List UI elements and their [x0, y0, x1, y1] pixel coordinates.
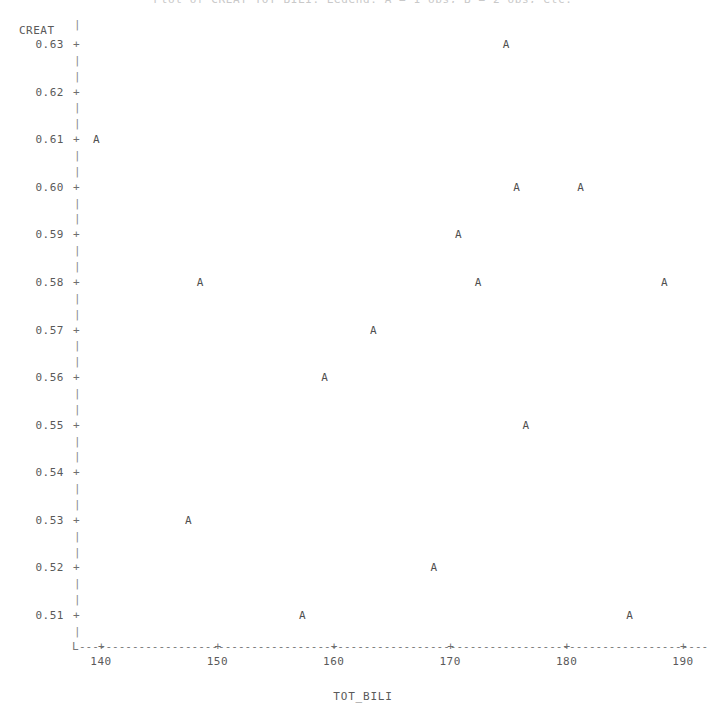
- data-point-marker: A: [624, 610, 634, 621]
- axis-origin-corner: L: [72, 641, 79, 652]
- y-axis-tick-label: 0.55: [20, 419, 64, 432]
- data-point-marker: A: [453, 229, 463, 240]
- y-axis-spine-segment: |: [74, 150, 81, 161]
- y-axis-tick-label: 0.54: [20, 466, 64, 479]
- y-axis-tick-mark: +: [73, 39, 80, 50]
- x-axis-tick-mark: +: [680, 641, 687, 652]
- y-axis-spine-segment: |: [74, 118, 81, 129]
- y-axis-spine-segment: |: [74, 436, 81, 447]
- y-axis-tick-label: 0.51: [20, 609, 64, 622]
- y-axis-spine-segment: |: [74, 340, 81, 351]
- data-point-marker: A: [473, 277, 483, 288]
- y-axis-tick-label: 0.57: [20, 324, 64, 337]
- x-axis-tick-mark: +: [331, 641, 338, 652]
- chart-title: Plot of CREAT*TOT_BILI. Legend: A = 1 ob…: [0, 0, 726, 3]
- y-axis-spine-segment: |: [74, 213, 81, 224]
- y-axis-spine-segment: |: [74, 578, 81, 589]
- x-axis-tick-label: 190: [663, 655, 703, 668]
- y-axis-tick-mark: +: [73, 467, 80, 478]
- x-axis-tick-label: 170: [430, 655, 470, 668]
- y-axis-tick-label: 0.53: [20, 514, 64, 527]
- y-axis-spine-segment: |: [74, 594, 81, 605]
- scatter-plot-canvas: Plot of CREAT*TOT_BILI. Legend: A = 1 ob…: [0, 0, 726, 718]
- data-point-marker: A: [195, 277, 205, 288]
- y-axis-spine-segment: |: [74, 19, 81, 30]
- y-axis-spine-segment: |: [74, 404, 81, 415]
- data-point-marker: A: [91, 134, 101, 145]
- y-axis-spine-segment: |: [74, 499, 81, 510]
- y-axis-tick-mark: +: [73, 325, 80, 336]
- data-point-marker: A: [521, 420, 531, 431]
- y-axis-tick-mark: +: [73, 277, 80, 288]
- y-axis-spine-segment: |: [74, 293, 81, 304]
- x-axis-tick-mark: +: [98, 641, 105, 652]
- y-axis-tick-mark: +: [73, 420, 80, 431]
- data-point-marker: A: [576, 182, 586, 193]
- data-point-marker: A: [659, 277, 669, 288]
- y-axis-spine-segment: |: [74, 451, 81, 462]
- y-axis-tick-mark: +: [73, 515, 80, 526]
- y-axis-spine-segment: |: [74, 55, 81, 66]
- y-axis-tick-mark: +: [73, 182, 80, 193]
- x-axis-tick-mark: +: [447, 641, 454, 652]
- y-axis-spine-segment: |: [74, 483, 81, 494]
- x-axis-tick-label: 160: [314, 655, 354, 668]
- data-point-marker: A: [297, 610, 307, 621]
- y-axis-tick-mark: +: [73, 229, 80, 240]
- y-axis-spine-segment: |: [74, 531, 81, 542]
- y-axis-spine-segment: |: [74, 245, 81, 256]
- x-axis-tick-mark: +: [214, 641, 221, 652]
- y-axis-tick-label: 0.56: [20, 371, 64, 384]
- y-axis-spine-segment: |: [74, 198, 81, 209]
- x-axis-tick-label: 150: [197, 655, 237, 668]
- y-axis-spine-segment: |: [74, 309, 81, 320]
- data-point-marker: A: [429, 562, 439, 573]
- y-axis-tick-label: 0.58: [20, 276, 64, 289]
- y-axis-spine-segment: |: [74, 166, 81, 177]
- data-point-marker: A: [501, 39, 511, 50]
- y-axis-spine-segment: |: [74, 356, 81, 367]
- y-axis-tick-label: 0.61: [20, 133, 64, 146]
- y-axis-spine-segment: |: [74, 626, 81, 637]
- y-axis-tick-mark: +: [73, 134, 80, 145]
- x-axis-tick-mark: +: [564, 641, 571, 652]
- y-axis-tick-label: 0.60: [20, 181, 64, 194]
- x-axis-variable-label: TOT_BILI: [0, 690, 726, 703]
- y-axis-spine-segment: |: [74, 261, 81, 272]
- y-axis-tick-mark: +: [73, 372, 80, 383]
- data-point-marker: A: [319, 372, 329, 383]
- y-axis-tick-label: 0.62: [20, 86, 64, 99]
- y-axis-spine-segment: |: [74, 388, 81, 399]
- y-axis-spine-segment: |: [74, 102, 81, 113]
- y-axis-variable-label: CREAT: [19, 24, 55, 37]
- y-axis-tick-mark: +: [73, 562, 80, 573]
- x-axis-tick-label: 140: [81, 655, 121, 668]
- y-axis-tick-mark: +: [73, 610, 80, 621]
- y-axis-spine-segment: |: [74, 547, 81, 558]
- data-point-marker: A: [512, 182, 522, 193]
- y-axis-tick-mark: +: [73, 87, 80, 98]
- data-point-marker: A: [368, 325, 378, 336]
- x-axis-tick-label: 180: [547, 655, 587, 668]
- y-axis-tick-label: 0.52: [20, 561, 64, 574]
- y-axis-tick-label: 0.63: [20, 38, 64, 51]
- data-point-marker: A: [183, 515, 193, 526]
- y-axis-spine-segment: |: [74, 71, 81, 82]
- y-axis-tick-label: 0.59: [20, 228, 64, 241]
- x-axis-rule: ----------------------------------------…: [79, 641, 708, 652]
